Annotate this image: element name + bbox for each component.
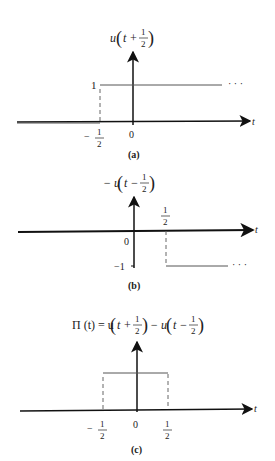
frac-num: 1 <box>191 314 196 324</box>
continuation-dots-icon: · · · <box>232 259 247 270</box>
panel-b-caption: (b) <box>128 280 140 292</box>
continuation-dots-icon: · · · <box>228 78 243 89</box>
panel-b: − u ( t − 1 2 ) t 1 2 · · · −1 0 (b) <box>18 172 258 292</box>
frac-num: 1 <box>141 27 146 37</box>
panel-c-caption: (c) <box>131 444 142 456</box>
panel-a: u ( t + 1 2 ) t 1 · · · − 1 2 0 (a) <box>17 27 255 161</box>
paren-close-icon: ) <box>142 315 148 336</box>
frac-num: 1 <box>142 172 147 182</box>
frac-num: 1 <box>135 314 140 324</box>
paren-open-icon: ( <box>110 315 116 336</box>
paren-open-icon: ( <box>117 173 123 194</box>
paren-close-icon: ) <box>148 28 154 49</box>
paren-close-icon: ) <box>149 173 155 194</box>
panel-c: Π (t) = u ( t + 1 2 ) − u ( t − 1 2 ) t … <box>20 314 257 456</box>
panel-c-function-label: Π (t) = u <box>72 318 114 332</box>
paren-open-icon: ( <box>166 315 172 336</box>
frac-num: 1 <box>97 127 102 137</box>
frac-num: 1 <box>165 419 170 429</box>
y-tick-minus-1: −1 <box>114 261 125 272</box>
tick-sign: − <box>84 131 90 142</box>
t-axis-label: t <box>255 224 258 235</box>
paren-open-icon: ( <box>116 28 122 49</box>
t-axis-label: t <box>252 116 255 127</box>
frac-den: 2 <box>141 39 146 49</box>
arg-1: t + <box>117 318 131 332</box>
arg-2: t − <box>173 318 187 332</box>
frac-den: 2 <box>142 184 147 194</box>
t-axis-label: t <box>254 403 257 414</box>
t-axis <box>18 230 253 232</box>
y-tick-1: 1 <box>91 79 97 91</box>
frac-den: 2 <box>135 326 140 336</box>
panel-b-arg: t − <box>124 176 138 190</box>
panel-a-arg: t + <box>123 31 137 45</box>
frac-num: 1 <box>163 205 168 215</box>
tick-zero: 0 <box>124 236 129 247</box>
tick-sign: − <box>87 423 93 434</box>
t-axis <box>17 121 250 122</box>
frac-den: 2 <box>100 431 105 441</box>
t-axis <box>20 409 252 411</box>
minus-u: − u <box>150 318 167 332</box>
tick-zero: 0 <box>129 129 134 140</box>
frac-num: 1 <box>100 419 105 429</box>
frac-den: 2 <box>163 217 168 227</box>
frac-den: 2 <box>165 431 170 441</box>
paren-close-icon: ) <box>198 315 204 336</box>
tick-zero: 0 <box>133 419 138 430</box>
frac-den: 2 <box>97 139 102 149</box>
unit-step-figure: u ( t + 1 2 ) t 1 · · · − 1 2 0 (a) − u … <box>0 0 275 461</box>
panel-a-caption: (a) <box>128 149 140 161</box>
frac-den: 2 <box>191 326 196 336</box>
